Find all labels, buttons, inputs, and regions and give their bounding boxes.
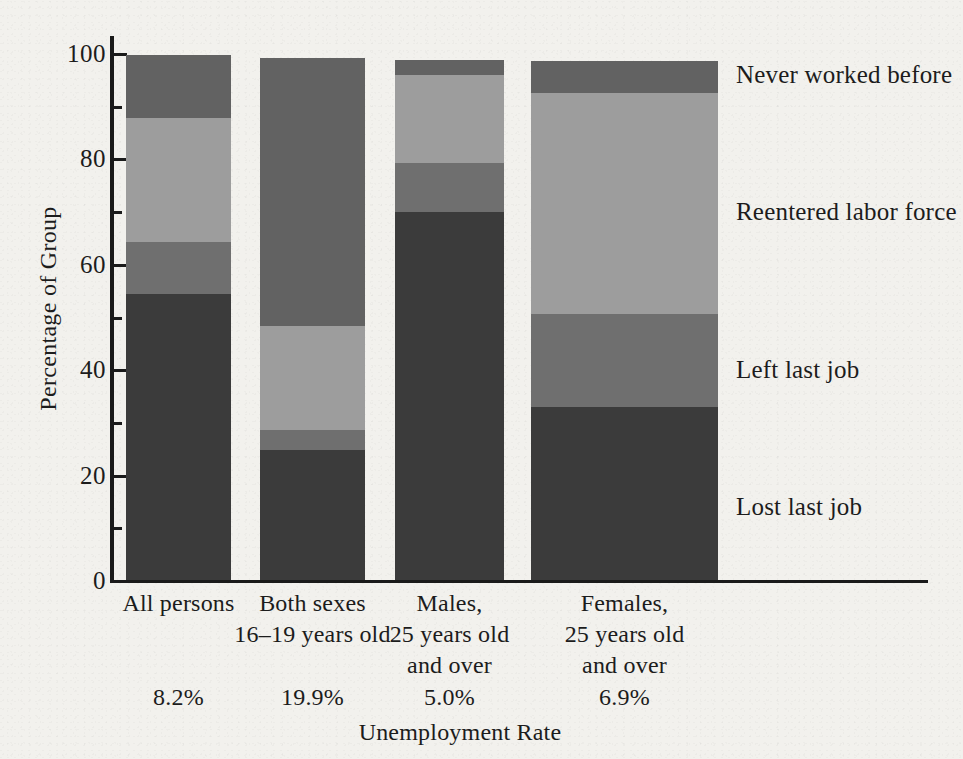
stacked-bar[interactable] <box>531 61 718 580</box>
y-axis-minor-tick <box>114 422 122 425</box>
bar-segment[interactable] <box>260 450 365 580</box>
bar-segment[interactable] <box>531 61 718 92</box>
unemployment-rate-value: 19.9% <box>233 684 393 711</box>
y-axis-title: Percentage of Group <box>35 99 62 519</box>
unemployment-rate-value: 6.9% <box>545 684 705 711</box>
legend-item-label: Left last job <box>736 355 859 385</box>
stacked-bar[interactable] <box>260 58 365 580</box>
x-axis-line <box>110 580 928 583</box>
legend-item-label: Reentered labor force <box>736 197 957 227</box>
category-label: Females,25 years oldand over <box>515 588 735 681</box>
plot-area: 020406080100 Percentage of Group Never w… <box>0 0 963 759</box>
y-axis-major-tick <box>114 580 127 583</box>
bar-segment[interactable] <box>531 407 718 580</box>
stacked-bar[interactable] <box>395 60 504 580</box>
bar-segment[interactable] <box>395 163 504 212</box>
y-axis-minor-tick <box>114 106 122 109</box>
category-label-line: and over <box>515 650 735 681</box>
bar-segment[interactable] <box>260 58 365 326</box>
bar-segment[interactable] <box>531 93 718 315</box>
x-axis-title: Unemployment Rate <box>250 719 670 746</box>
legend-item-label: Lost last job <box>736 492 862 522</box>
y-axis-minor-tick <box>114 211 122 214</box>
y-axis-minor-tick <box>114 317 122 320</box>
legend-item-label: Never worked before <box>736 60 952 90</box>
bar-segment[interactable] <box>531 314 718 407</box>
bar-segment[interactable] <box>395 60 504 75</box>
bar-segment[interactable] <box>260 430 365 450</box>
y-axis-line <box>110 36 114 583</box>
category-label-line: Females, <box>515 588 735 619</box>
unemployment-rate-value: 5.0% <box>370 684 530 711</box>
category-label-line: 25 years old <box>515 619 735 650</box>
bar-segment[interactable] <box>395 75 504 163</box>
y-axis-tick-label: 100 <box>38 41 106 66</box>
bar-segment[interactable] <box>126 118 231 242</box>
bar-segment[interactable] <box>395 212 504 580</box>
bar-segment[interactable] <box>126 55 231 118</box>
stacked-bar[interactable] <box>126 55 231 580</box>
y-axis-minor-tick <box>114 527 122 530</box>
bar-segment[interactable] <box>260 326 365 430</box>
bar-segment[interactable] <box>126 242 231 295</box>
bar-segment[interactable] <box>126 294 231 580</box>
chart-page: 020406080100 Percentage of Group Never w… <box>0 0 963 759</box>
